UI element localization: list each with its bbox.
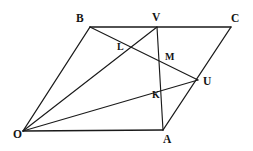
- vertex-label-U: U: [203, 76, 211, 88]
- vertex-label-C: C: [231, 13, 239, 25]
- segment-side-CA: [163, 27, 231, 130]
- vertex-label-B: B: [76, 13, 84, 25]
- figure-canvas: [0, 0, 253, 151]
- point-label-M: M: [165, 52, 174, 62]
- segment-side-AO: [23, 130, 163, 131]
- point-label-K: K: [152, 90, 160, 100]
- vertex-label-A: A: [163, 134, 171, 146]
- segment-cevian-OV: [23, 27, 157, 131]
- segment-cevian-BU: [90, 27, 198, 80]
- segment-cevian-VA: [157, 27, 163, 130]
- segment-side-OB: [23, 27, 90, 131]
- segment-cevian-OU: [23, 80, 198, 131]
- vertex-label-V: V: [152, 12, 160, 24]
- geometry-figure: BVCUOALMK: [0, 0, 253, 151]
- segments-group: [23, 27, 231, 131]
- vertex-label-O: O: [13, 129, 22, 141]
- point-label-L: L: [117, 42, 124, 52]
